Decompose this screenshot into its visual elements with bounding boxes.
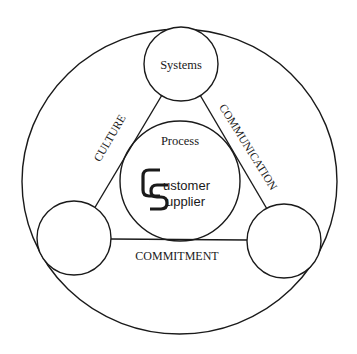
systems-label: Systems (160, 58, 202, 72)
right-circle (247, 204, 321, 278)
commitment-label: COMMITMENT (135, 249, 219, 263)
logo-customer-text: ustomer (163, 178, 211, 193)
diagram-canvas: Systems Process CULTURE COMMUNICATION CO… (0, 0, 357, 354)
edge-commitment-line (111, 239, 247, 240)
logo-supplier-text: upplier (166, 194, 206, 209)
left-circle (37, 201, 111, 275)
customer-supplier-logo: ustomer upplier (143, 170, 211, 209)
process-label: Process (161, 134, 199, 148)
culture-label: CULTURE (91, 112, 127, 163)
